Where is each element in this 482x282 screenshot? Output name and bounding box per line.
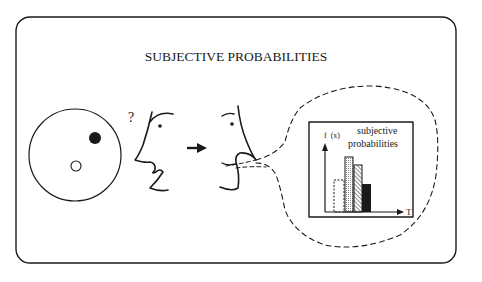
bar-dashed	[334, 180, 344, 212]
x-axis-label: T	[406, 207, 412, 217]
bar-black	[362, 184, 371, 212]
bar-dotted	[345, 157, 353, 212]
face-questioning-icon	[135, 112, 173, 191]
white-ball-icon	[71, 161, 81, 171]
subjective-probability-chart: f (x) T subjective probabilities	[309, 122, 413, 217]
chart-legend-line1: subjective	[357, 125, 398, 136]
chart-legend-line2: probabilities	[348, 138, 398, 149]
urn-icon	[29, 109, 121, 201]
y-axis-label: f (x)	[324, 131, 340, 140]
subjective-probabilities-diagram: SUBJECTIVE PROBABILITIES ? f (x)	[0, 0, 482, 282]
right-arrow-icon	[187, 143, 207, 153]
face-speaking-icon	[220, 106, 256, 190]
question-mark: ?	[128, 110, 134, 125]
black-ball-icon	[89, 132, 101, 144]
bar-hatched	[354, 165, 362, 212]
diagram-title: SUBJECTIVE PROBABILITIES	[145, 49, 328, 64]
